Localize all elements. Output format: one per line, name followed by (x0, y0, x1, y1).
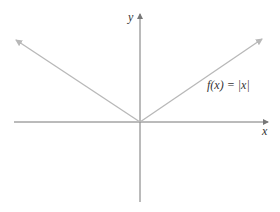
graph-canvas (0, 0, 280, 212)
x-axis-label: x (262, 125, 267, 137)
graph-figure: y x f(x) = |x| (0, 0, 280, 212)
curve-left-branch (16, 40, 140, 122)
function-label: f(x) = |x| (207, 79, 250, 91)
y-axis-label: y (128, 11, 133, 23)
